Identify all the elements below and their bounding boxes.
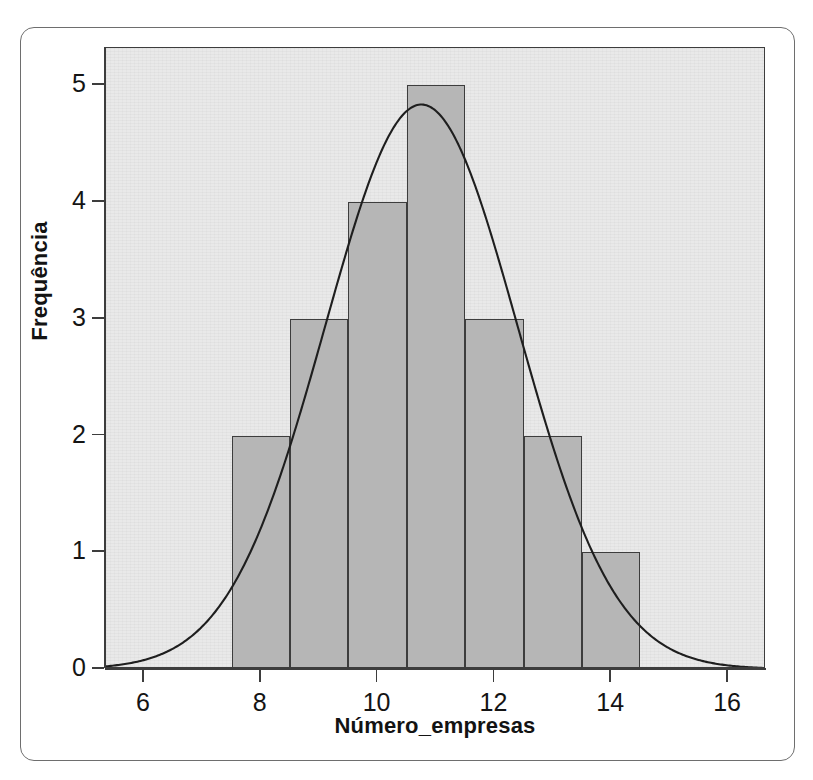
y-axis-tick-label: 2 <box>26 422 86 447</box>
histogram-figure: 012345 Frequência Número_empresas 681012… <box>0 0 813 780</box>
y-axis-tick <box>92 317 104 319</box>
x-axis-tick-label: 14 <box>575 690 645 715</box>
x-axis-tick-label: 10 <box>342 690 412 715</box>
x-axis-tick <box>493 669 495 682</box>
x-axis-tick <box>726 669 728 682</box>
x-axis-tick <box>609 669 611 682</box>
y-axis-line <box>104 47 106 668</box>
x-axis-tick <box>142 669 144 682</box>
y-axis-tick <box>92 667 104 669</box>
x-axis-tick-label: 6 <box>108 690 178 715</box>
x-axis-line <box>105 668 766 670</box>
y-axis-title: Frequência <box>27 201 53 361</box>
y-axis-tick <box>92 200 104 202</box>
x-axis-tick <box>376 669 378 682</box>
x-axis-tick <box>259 669 261 682</box>
y-axis-tick <box>92 434 104 436</box>
plot-area <box>105 47 765 668</box>
x-axis-tick-label: 12 <box>458 690 528 715</box>
x-axis-tick-label: 8 <box>225 690 295 715</box>
x-axis-tick-label: 16 <box>692 690 762 715</box>
y-axis-tick-label: 5 <box>26 71 86 96</box>
curve-path <box>106 105 765 668</box>
normal-distribution-curve <box>106 48 765 668</box>
y-axis-tick <box>92 83 104 85</box>
x-axis-title: Número_empresas <box>105 713 765 739</box>
y-axis-tick <box>92 550 104 552</box>
y-axis-tick-label: 1 <box>26 538 86 563</box>
y-axis-tick-label: 0 <box>26 655 86 680</box>
y-axis-tick-labels: 012345 <box>0 0 86 780</box>
